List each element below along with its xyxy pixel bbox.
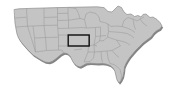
- us-map-graphic: [0, 0, 173, 93]
- us-map-thumbnail: [0, 0, 173, 93]
